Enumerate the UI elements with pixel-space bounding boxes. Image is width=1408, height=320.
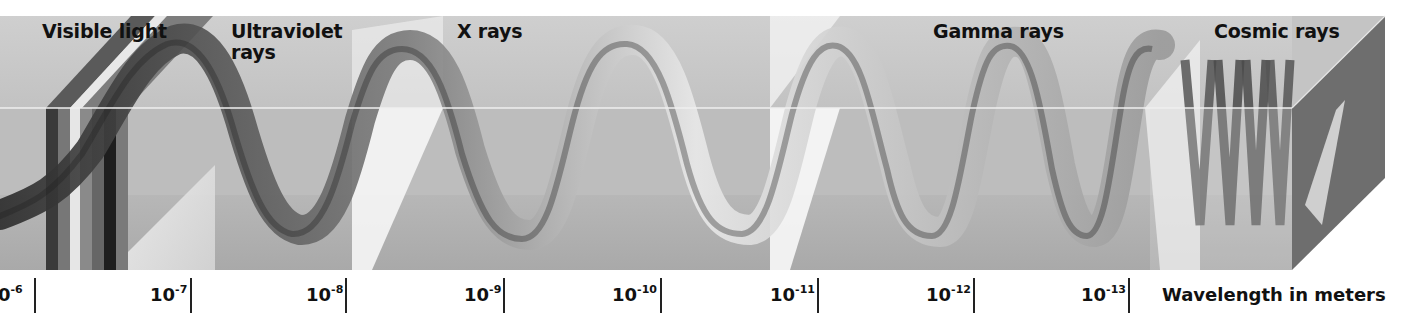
region-label-cosmic-rays: Cosmic rays <box>1214 21 1340 42</box>
region-label-visible-light: Visible light <box>42 21 167 42</box>
tick-label-1e-13: 10-13 <box>1081 284 1126 305</box>
tick-mark <box>503 278 505 313</box>
tick-mark <box>660 278 662 313</box>
tick-mark <box>1128 278 1130 313</box>
tick-mark <box>973 278 975 313</box>
region-label-ultraviolet-line2: rays <box>231 42 342 63</box>
tick-label-1e-7: 10-7 <box>150 284 187 305</box>
tick-label-1e-10: 10-10 <box>612 284 657 305</box>
region-label-ultraviolet-line1: Ultraviolet <box>231 21 342 42</box>
tick-label-1e-8: 10-8 <box>306 284 343 305</box>
tick-mark <box>34 278 36 313</box>
tick-label-1e-9: 10-9 <box>464 284 501 305</box>
tick-mark <box>817 278 819 313</box>
tick-label-1e-12: 10-12 <box>926 284 971 305</box>
axis-title: Wavelength in meters <box>1162 284 1386 305</box>
tick-label-1e-11: 10-11 <box>770 284 815 305</box>
tick-label-1e-6: 0-6 <box>0 284 23 305</box>
wave-ribbon-graphic <box>0 0 1408 280</box>
tick-mark <box>190 278 192 313</box>
wavelength-axis: 0-6 10-7 10-8 10-9 10-10 10-11 10-12 10-… <box>0 270 1408 320</box>
tick-mark <box>345 278 347 313</box>
region-label-x-rays: X rays <box>457 21 522 42</box>
spectrum-illustration: Visible light Ultraviolet rays X rays Ga… <box>0 0 1408 280</box>
region-label-gamma-rays: Gamma rays <box>933 21 1064 42</box>
region-label-ultraviolet: Ultraviolet rays <box>231 21 342 63</box>
